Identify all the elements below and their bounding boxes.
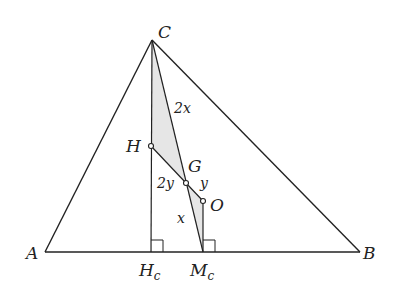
point-G — [184, 181, 189, 186]
label-A: A — [24, 243, 38, 263]
point-H — [149, 144, 154, 149]
segment-label-GMc: x — [177, 210, 185, 226]
label-O: O — [210, 195, 224, 215]
label-Hc: Hc — [138, 260, 161, 283]
label-C: C — [158, 22, 171, 42]
segment-label-CG: 2x — [173, 100, 191, 116]
point-O — [201, 199, 206, 204]
euler-line-diagram: C A B H G O Hc Mc 2x 2y y x — [0, 0, 400, 298]
right-angle-mark-Mc — [203, 240, 215, 252]
segment-label-GO: y — [199, 175, 209, 191]
label-G: G — [188, 156, 202, 176]
label-Mc: Mc — [189, 260, 214, 283]
label-B: B — [362, 243, 376, 263]
segment-label-HG: 2y — [156, 175, 175, 191]
label-H: H — [125, 136, 142, 156]
right-angle-mark-Hc — [151, 240, 163, 252]
